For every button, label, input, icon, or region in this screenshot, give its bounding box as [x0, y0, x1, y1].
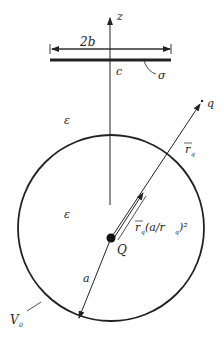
epsilon-inner-label: ε [64, 208, 70, 221]
image-vector-label: r q (a/r q )² [135, 221, 188, 236]
image-charge-diagram: z 2b c σ ε ε q r q r q (a/r q )² Q a V 0 [0, 0, 222, 350]
sigma-label: σ [158, 69, 166, 82]
vector-rq-label: r q [184, 143, 195, 158]
z-axis-label: z [116, 10, 123, 23]
radius-label: a [83, 272, 90, 285]
image-charge-label: Q [117, 243, 127, 257]
sigma-leader [144, 61, 156, 74]
svg-text:0: 0 [19, 321, 23, 328]
charge-q-label: q [207, 97, 214, 110]
svg-text:)²: )² [178, 221, 188, 234]
plate-distance-label: c [116, 65, 122, 78]
charge-q-dot [201, 100, 203, 102]
vector-rq [111, 104, 200, 238]
width-label: 2b [79, 35, 95, 49]
svg-text:(a/r: (a/r [145, 221, 166, 234]
epsilon-outer-label: ε [64, 114, 70, 127]
svg-text:q: q [191, 150, 195, 158]
potential-label: V 0 [10, 313, 23, 328]
potential-leader [27, 302, 41, 311]
